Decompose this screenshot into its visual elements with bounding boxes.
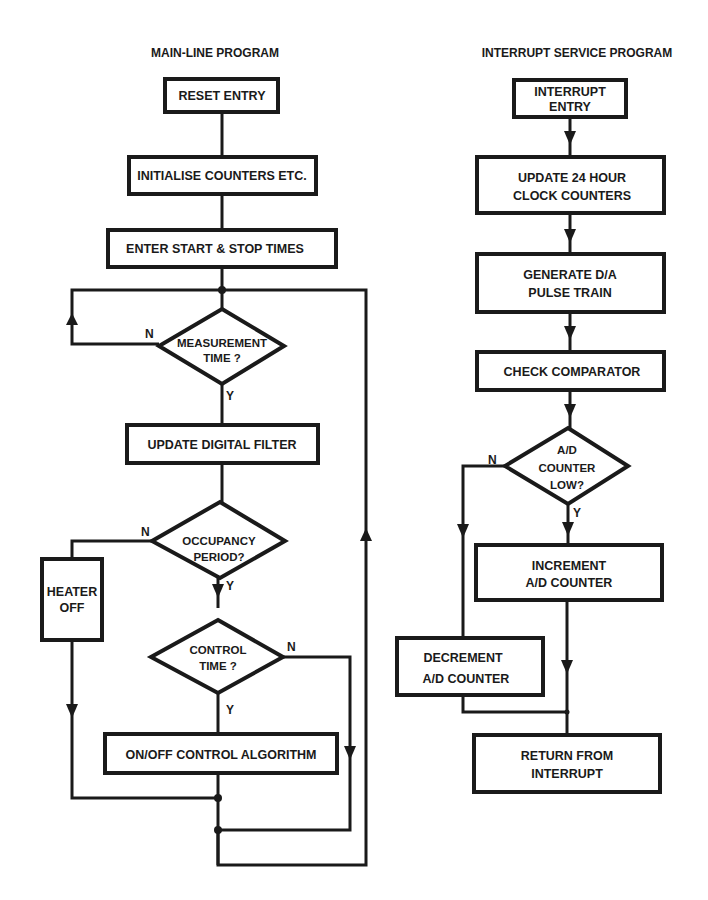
- arrow-down-icon: [561, 660, 573, 674]
- initialise-box: INITIALISE COUNTERS ETC.: [129, 157, 316, 194]
- svg-text:CLOCK COUNTERS: CLOCK COUNTERS: [513, 189, 631, 203]
- occupancy-no-line: [72, 541, 152, 558]
- measurement-time-decision: MEASUREMENT TIME ?: [159, 309, 284, 384]
- svg-text:A/D: A/D: [557, 444, 577, 456]
- control-time-decision: CONTROL TIME ?: [151, 620, 283, 693]
- svg-text:A/D COUNTER: A/D COUNTER: [526, 576, 613, 590]
- on-off-control-box: ON/OFF CONTROL ALGORITHM: [105, 734, 337, 773]
- enter-times-box: ENTER START & STOP TIMES: [108, 230, 336, 267]
- interrupt-title: INTERRUPT SERVICE PROGRAM: [482, 46, 672, 60]
- svg-text:HEATER: HEATER: [47, 585, 97, 599]
- svg-text:OFF: OFF: [60, 601, 85, 615]
- increment-box: INCREMENT A/D COUNTER: [476, 545, 662, 600]
- arrow-down-icon: [564, 404, 576, 418]
- svg-text:INTERRUPT: INTERRUPT: [531, 767, 603, 781]
- main-line-title: MAIN-LINE PROGRAM: [151, 46, 279, 60]
- arrow-up-icon: [66, 313, 78, 325]
- svg-text:UPDATE 24 HOUR: UPDATE 24 HOUR: [518, 171, 626, 185]
- no-label: N: [287, 640, 296, 654]
- arrow-down-icon: [562, 522, 574, 536]
- svg-text:INCREMENT: INCREMENT: [532, 559, 607, 573]
- svg-text:PERIOD?: PERIOD?: [193, 551, 244, 563]
- heater-off-box: HEATER OFF: [42, 559, 102, 640]
- svg-text:LOW?: LOW?: [550, 479, 584, 491]
- svg-text:DECREMENT: DECREMENT: [423, 651, 503, 665]
- ad-counter-low-decision: A/D COUNTER LOW?: [505, 428, 628, 504]
- svg-text:COUNTER: COUNTER: [539, 462, 597, 474]
- junction-dot: [214, 826, 222, 834]
- svg-text:UPDATE DIGITAL FILTER: UPDATE DIGITAL FILTER: [147, 438, 296, 452]
- arrow-down-icon: [457, 524, 469, 538]
- no-label: N: [141, 525, 150, 539]
- svg-text:CONTROL: CONTROL: [190, 644, 247, 656]
- arrow-down-icon: [564, 326, 576, 340]
- svg-text:RETURN FROM: RETURN FROM: [521, 749, 613, 763]
- yes-label: Y: [226, 703, 234, 717]
- generate-da-box: GENERATE D/A PULSE TRAIN: [477, 254, 664, 312]
- occupancy-period-decision: OCCUPANCY PERIOD?: [152, 502, 285, 578]
- arrow-down-icon: [564, 229, 576, 243]
- svg-text:ENTER START & STOP TIMES: ENTER START & STOP TIMES: [126, 242, 304, 256]
- no-label: N: [488, 453, 497, 467]
- svg-text:ON/OFF CONTROL ALGORITHM: ON/OFF CONTROL ALGORITHM: [126, 748, 317, 762]
- svg-text:ENTRY: ENTRY: [549, 100, 592, 114]
- svg-text:TIME ?: TIME ?: [199, 660, 237, 672]
- arrow-down-icon: [66, 704, 78, 718]
- check-comparator-box: CHECK COMPARATOR: [477, 352, 664, 390]
- update-clock-box: UPDATE 24 HOUR CLOCK COUNTERS: [477, 157, 664, 213]
- arrow-down-icon: [564, 131, 576, 145]
- update-filter-box: UPDATE DIGITAL FILTER: [127, 425, 318, 463]
- svg-text:PULSE TRAIN: PULSE TRAIN: [528, 286, 611, 300]
- main-return-loop: [218, 290, 366, 865]
- svg-text:INTERRUPT: INTERRUPT: [534, 85, 606, 99]
- yes-label: Y: [226, 389, 234, 403]
- svg-text:OCCUPANCY: OCCUPANCY: [182, 535, 256, 547]
- yes-label: Y: [226, 579, 234, 593]
- svg-text:A/D COUNTER: A/D COUNTER: [423, 672, 510, 686]
- arrow-down-icon: [212, 584, 224, 598]
- svg-text:INITIALISE COUNTERS ETC.: INITIALISE COUNTERS ETC.: [137, 169, 306, 183]
- return-box: RETURN FROM INTERRUPT: [474, 735, 660, 792]
- svg-text:TIME ?: TIME ?: [203, 352, 241, 364]
- decrement-out-line: [463, 695, 567, 712]
- svg-text:CHECK COMPARATOR: CHECK COMPARATOR: [504, 365, 641, 379]
- decrement-box: DECREMENT A/D COUNTER: [397, 638, 543, 695]
- arrow-up-icon: [360, 528, 372, 541]
- svg-text:GENERATE D/A: GENERATE D/A: [523, 268, 617, 282]
- junction-dot: [214, 794, 222, 802]
- junction-dot: [565, 710, 570, 715]
- reset-entry-box: RESET ENTRY: [165, 79, 278, 112]
- flowchart-canvas: MAIN-LINE PROGRAM RESET ENTRY INITIALISE…: [0, 0, 708, 900]
- no-label: N: [145, 327, 154, 341]
- arrow-down-icon: [344, 746, 356, 760]
- svg-text:MEASUREMENT: MEASUREMENT: [177, 337, 267, 349]
- svg-text:RESET ENTRY: RESET ENTRY: [178, 89, 266, 103]
- junction-dot: [218, 286, 226, 294]
- interrupt-entry-box: INTERRUPT ENTRY: [514, 80, 626, 117]
- yes-label: Y: [573, 506, 581, 520]
